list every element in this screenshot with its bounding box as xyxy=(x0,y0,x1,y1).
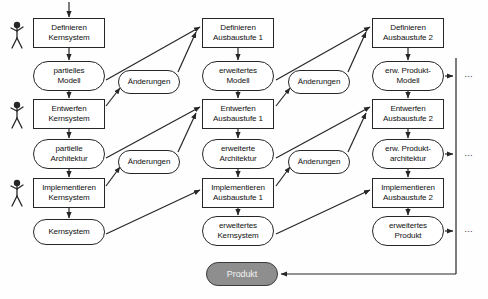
activity-implementieren-ausbaustufe-2[interactable]: Implementieren Ausbaustufe 2 xyxy=(372,178,444,208)
actor-icon xyxy=(8,100,26,130)
node-line-1: Produkt xyxy=(227,269,257,279)
edge-enta1-to-aenderungen3 xyxy=(276,88,290,106)
node-line-1: Kernsystem xyxy=(48,227,89,237)
node-line-1: erweitertes xyxy=(389,221,427,231)
activity-entwerfen-kernsystem[interactable]: Entwerfen Kernsystem xyxy=(33,99,105,129)
node-line-1: erw. Produkt- xyxy=(385,144,431,154)
edge-impa1-to-aenderungen4 xyxy=(276,167,290,186)
activity-implementieren-ausbaustufe-1[interactable]: Implementieren Ausbaustufe 1 xyxy=(202,178,274,208)
change-aenderungen-3[interactable]: Änderungen xyxy=(288,70,350,94)
change-aenderungen-4[interactable]: Änderungen xyxy=(288,150,350,174)
activity-entwerfen-ausbaustufe-1[interactable]: Entwerfen Ausbaustufe 1 xyxy=(202,99,274,129)
node-line-2: Kernsystem xyxy=(48,193,89,203)
activity-implementieren-kernsystem[interactable]: Implementieren Kernsystem xyxy=(33,178,105,208)
activity-entwerfen-ausbaustufe-2[interactable]: Entwerfen Ausbaustufe 2 xyxy=(372,99,444,129)
artifact-partielles-modell[interactable]: partielles Modell xyxy=(33,61,105,91)
node-line-2: Ausbaustufe 2 xyxy=(383,33,433,43)
edge-erwkernsystem-to-impa2 xyxy=(276,190,370,234)
node-line-2: Architektur xyxy=(219,154,256,164)
activity-definieren-ausbaustufe-2[interactable]: Definieren Ausbaustufe 2 xyxy=(372,18,444,48)
edge-aenderungen4-to-enta2 xyxy=(348,113,366,152)
node-line-1: Definieren xyxy=(51,23,86,33)
node-line-1: Änderungen xyxy=(298,77,341,87)
node-line-2: Ausbaustufe 1 xyxy=(213,33,263,43)
node-line-1: Implementieren xyxy=(211,183,265,193)
node-line-1: Entwerfen xyxy=(51,104,86,114)
edge-aenderungen1-to-defa1 xyxy=(178,32,196,72)
node-line-1: Änderungen xyxy=(128,77,171,87)
artifact-erweitertes-produkt[interactable]: erweitertes Produkt xyxy=(372,216,444,246)
actor-icon xyxy=(8,178,26,208)
edge-aenderungen2-to-enta1 xyxy=(178,113,196,152)
change-aenderungen-2[interactable]: Änderungen xyxy=(118,150,180,174)
node-line-1: Definieren xyxy=(220,23,255,33)
artifact-erweitertes-kernsystem[interactable]: erweitertes Kernsystem xyxy=(202,216,274,246)
node-line-1: erw. Produkt- xyxy=(385,66,431,76)
node-line-1: Definieren xyxy=(390,23,425,33)
node-line-2: Modell xyxy=(397,76,420,86)
node-line-2: Ausbaustufe 2 xyxy=(383,193,433,203)
node-line-1: Änderungen xyxy=(298,157,341,167)
continuation-ellipsis: … xyxy=(464,70,474,79)
node-line-1: Entwerfen xyxy=(220,104,255,114)
node-line-1: Entwerfen xyxy=(390,104,425,114)
node-line-2: Kernsystem xyxy=(217,231,258,241)
node-line-1: Implementieren xyxy=(42,183,96,193)
artifact-erw-produkt-architektur[interactable]: erw. Produkt- architektur xyxy=(372,139,444,169)
activity-definieren-ausbaustufe-1[interactable]: Definieren Ausbaustufe 1 xyxy=(202,18,274,48)
artifact-erweitertes-modell[interactable]: erweitertes Modell xyxy=(202,61,274,91)
node-line-2: Kernsystem xyxy=(48,33,89,43)
node-line-2: Produkt xyxy=(395,231,422,241)
node-line-2: Modell xyxy=(58,76,81,86)
edge-aenderungen3-to-defa2 xyxy=(348,32,366,72)
actor-icon xyxy=(8,20,26,50)
node-line-2: Ausbaustufe 1 xyxy=(213,193,263,203)
edge-impkern-to-aenderungen2 xyxy=(106,167,120,186)
edge-kernsystem-to-impa1 xyxy=(106,190,200,234)
artifact-kernsystem[interactable]: Kernsystem xyxy=(33,219,105,245)
continuation-ellipsis: … xyxy=(464,149,474,158)
node-line-2: Kernsystem xyxy=(48,114,89,124)
node-line-1: erweitertes xyxy=(219,66,257,76)
node-line-2: Modell xyxy=(227,76,250,86)
diagram-canvas: Definieren Kernsystem partielles Modell … xyxy=(0,0,488,299)
artifact-erweiterte-architektur[interactable]: erweiterte Architektur xyxy=(202,139,274,169)
node-line-2: architektur xyxy=(390,154,426,164)
node-line-1: Implementieren xyxy=(381,183,435,193)
node-line-1: Änderungen xyxy=(128,157,171,167)
change-aenderungen-1[interactable]: Änderungen xyxy=(118,70,180,94)
node-line-1: partielle xyxy=(55,144,82,154)
node-line-2: Ausbaustufe 1 xyxy=(213,114,263,124)
node-line-1: erweiterte xyxy=(221,144,255,154)
edge-entkern-to-aenderungen1 xyxy=(106,88,120,106)
activity-definieren-kernsystem[interactable]: Definieren Kernsystem xyxy=(33,18,105,48)
continuation-ellipsis: … xyxy=(464,225,474,234)
node-line-1: partielles xyxy=(53,66,84,76)
artifact-erw-produkt-modell[interactable]: erw. Produkt- Modell xyxy=(372,61,444,91)
node-line-1: erweitertes xyxy=(219,221,257,231)
artifact-partielle-architektur[interactable]: partielle Architektur xyxy=(33,139,105,169)
node-line-2: Ausbaustufe 2 xyxy=(383,114,433,124)
node-line-2: Architektur xyxy=(50,154,87,164)
artifact-produkt[interactable]: Produkt xyxy=(206,262,278,286)
